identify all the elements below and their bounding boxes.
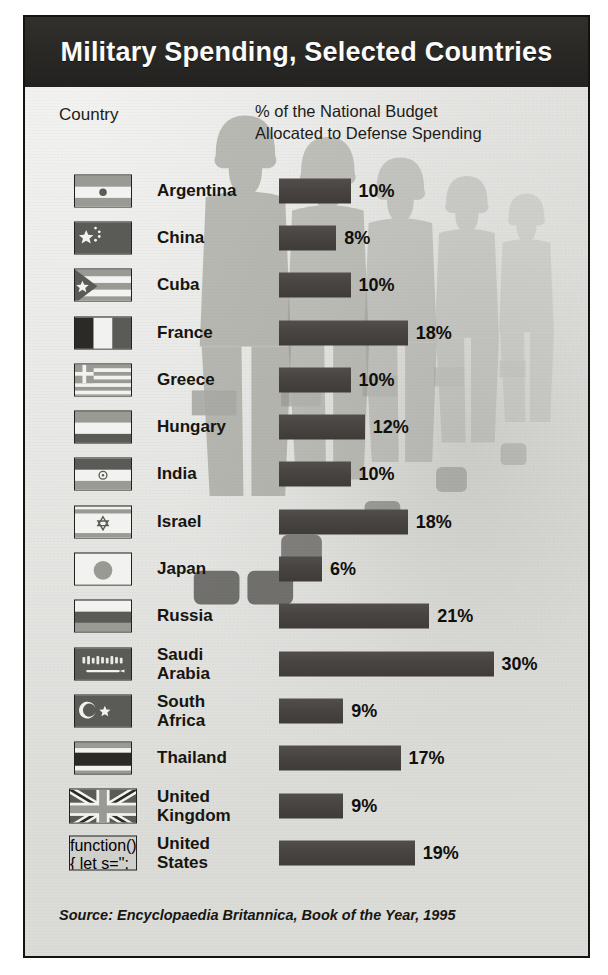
value-label: 17% [409,748,445,769]
flag-israel-icon [74,505,132,538]
value-label: 9% [351,700,377,721]
chart-row: India10% [25,451,588,498]
country-label-line: France [157,323,257,342]
chart-row: France18% [25,309,588,356]
value-label: 18% [416,511,452,532]
percent-column-header: % of the National Budget Allocated to De… [255,101,482,145]
flag-greece-icon [74,363,132,396]
bar-track: 21% [256,593,588,640]
country-label-line: India [157,465,257,484]
chart-row: China8% [25,214,588,261]
value-bar [279,273,351,298]
value-label: 30% [502,653,538,674]
value-bar [279,557,322,582]
country-label-line: Hungary [157,418,257,437]
country-label-line: States [157,853,257,872]
value-bar [279,320,408,345]
flag-china-icon [74,221,132,254]
chart-row: function(){ let s=''; for(let i=0;i<7;i+… [25,829,588,876]
country-label: China [157,228,257,247]
country-label-line: Argentina [157,181,257,200]
flag-united-kingdom-icon [69,788,137,823]
value-bar [279,746,401,771]
value-bar [279,509,408,534]
country-label: UnitedKingdom [157,786,257,824]
bar-track: 9% [256,687,588,734]
value-label: 18% [416,322,452,343]
chart-row: Hungary12% [25,403,588,450]
country-label: India [157,465,257,484]
value-bar [279,793,343,818]
bar-track: 10% [256,451,588,498]
value-bar [279,604,429,629]
country-label: SouthAfrica [157,692,257,730]
chart-row: UnitedKingdom9% [25,782,588,829]
country-label-line: Israel [157,512,257,531]
flag-south-africa-icon [74,694,132,727]
value-label: 8% [344,227,370,248]
country-label: Israel [157,512,257,531]
country-label: UnitedStates [157,834,257,872]
country-label: SaudiArabia [157,645,257,683]
percent-header-line-2: Allocated to Defense Spending [255,123,482,145]
value-bar [279,651,494,676]
country-label-line: Arabia [157,664,257,683]
flag-hungary-icon [74,411,132,444]
page-title: Military Spending, Selected Countries [61,37,553,68]
percent-header-line-1: % of the National Budget [255,101,482,123]
value-label: 19% [423,842,459,863]
value-bar [279,462,351,487]
country-label-line: United [157,834,257,853]
flag-united-states-icon: function(){ let s=''; for(let i=0;i<7;i+… [69,835,137,870]
chart-row: Russia21% [25,593,588,640]
country-column-header: Country [59,105,119,125]
country-label-line: Greece [157,370,257,389]
chart-row: SouthAfrica9% [25,687,588,734]
chart-row: Thailand17% [25,735,588,782]
country-label: Greece [157,370,257,389]
flag-argentina-icon [74,174,132,207]
country-label-line: Africa [157,711,257,730]
flag-saudi-arabia-icon [74,647,132,680]
bar-track: 18% [256,498,588,545]
bar-track: 10% [256,167,588,214]
value-bar [279,698,343,723]
country-label: Argentina [157,181,257,200]
value-label: 10% [359,369,395,390]
country-label-line: Cuba [157,276,257,295]
country-label: Cuba [157,276,257,295]
country-label-line: Kingdom [157,806,257,825]
country-label: France [157,323,257,342]
source-text: Source: Encyclopaedia Britannica, Book o… [59,907,455,923]
chart-row: Japan6% [25,545,588,592]
bar-track: 30% [256,640,588,687]
value-bar [279,178,351,203]
chart-row: Argentina10% [25,167,588,214]
value-label: 9% [351,795,377,816]
bar-track: 10% [256,356,588,403]
chart-row: Israel18% [25,498,588,545]
value-label: 21% [437,606,473,627]
bar-track: 10% [256,262,588,309]
chart-row: SaudiArabia30% [25,640,588,687]
country-label: Thailand [157,749,257,768]
bar-track: 17% [256,735,588,782]
infographic-card: Military Spending, Selected Countries Co… [23,15,590,958]
bar-track: 18% [256,309,588,356]
chart-row: Greece10% [25,356,588,403]
flag-france-icon [74,316,132,349]
country-label-line: Saudi [157,645,257,664]
country-label-line: Thailand [157,749,257,768]
value-label: 10% [359,180,395,201]
flag-cuba-icon [74,269,132,302]
value-label: 10% [359,275,395,296]
value-label: 6% [330,559,356,580]
chart-row: Cuba10% [25,262,588,309]
flag-japan-icon [74,553,132,586]
country-label: Hungary [157,418,257,437]
bar-track: 8% [256,214,588,261]
chart-rows: Argentina10%China8%Cuba10%France18%Greec… [25,167,588,876]
bar-track: 19% [256,829,588,876]
country-label-line: South [157,692,257,711]
flag-thailand-icon [74,742,132,775]
